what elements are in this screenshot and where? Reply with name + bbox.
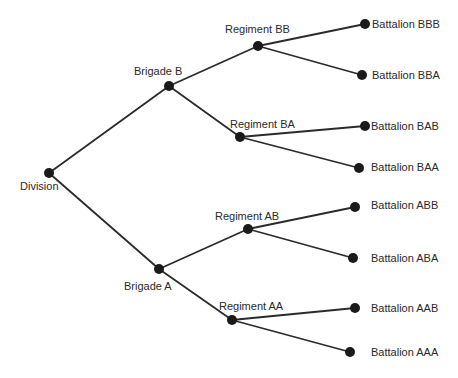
node-battalion-aab [350, 303, 360, 313]
node-brigade-b [164, 81, 174, 91]
label-battalion-aba: Battalion ABA [371, 252, 439, 264]
node-regiment-ab [243, 224, 253, 234]
node-regiment-aa [227, 315, 237, 325]
edges [49, 24, 365, 352]
label-regiment-ab: Regiment AB [215, 210, 279, 222]
edge-brigade-a-to-regiment-ab [159, 229, 248, 269]
edge-regiment-aa-to-battalion-aaa [232, 320, 350, 352]
label-regiment-aa: Regiment AA [219, 300, 284, 312]
node-battalion-aba [348, 253, 358, 263]
label-battalion-bba: Battalion BBA [372, 69, 441, 81]
label-brigade-a: Brigade A [124, 280, 172, 292]
edge-division-to-brigade-a [49, 173, 159, 269]
node-battalion-bab [360, 121, 370, 131]
edge-brigade-a-to-regiment-aa [159, 269, 232, 320]
node-battalion-bbb [360, 19, 370, 29]
node-battalion-bba [357, 70, 367, 80]
node-division [44, 168, 54, 178]
edge-brigade-b-to-regiment-bb [169, 46, 258, 86]
label-battalion-abb: Battalion ABB [371, 199, 438, 211]
edge-regiment-ba-to-battalion-baa [240, 137, 359, 168]
label-battalion-aaa: Battalion AAA [371, 346, 439, 358]
node-regiment-bb [253, 41, 263, 51]
node-battalion-aaa [345, 347, 355, 357]
edge-division-to-brigade-b [49, 86, 169, 173]
node-battalion-abb [350, 202, 360, 212]
label-division: Division [20, 180, 59, 192]
label-brigade-b: Brigade B [134, 65, 182, 77]
label-regiment-ba: Regiment BA [230, 118, 295, 130]
edge-regiment-bb-to-battalion-bba [258, 46, 362, 75]
node-regiment-ba [235, 132, 245, 142]
hierarchy-tree: DivisionBrigade BBrigade ARegiment BBReg… [0, 0, 458, 378]
label-battalion-aab: Battalion AAB [371, 302, 438, 314]
node-brigade-a [154, 264, 164, 274]
label-regiment-bb: Regiment BB [225, 23, 290, 35]
edge-regiment-ab-to-battalion-aba [248, 229, 353, 258]
labels: DivisionBrigade BBrigade ARegiment BBReg… [20, 18, 441, 358]
label-battalion-baa: Battalion BAA [371, 161, 440, 173]
node-battalion-baa [354, 163, 364, 173]
label-battalion-bbb: Battalion BBB [372, 18, 440, 30]
label-battalion-bab: Battalion BAB [371, 120, 439, 132]
